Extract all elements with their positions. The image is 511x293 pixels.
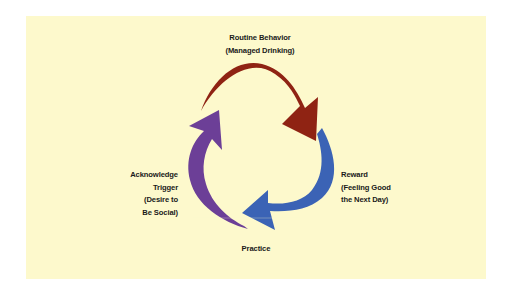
reward-label-line2: (Feeling Good	[341, 182, 421, 195]
blue-arrow-icon	[242, 128, 334, 230]
trigger-label-line1: Acknowledge	[100, 169, 178, 182]
trigger-label-line4: Be Social)	[100, 207, 178, 220]
node-routine-behavior: Routine Behavior (Managed Drinking)	[200, 32, 320, 57]
trigger-label-line2: Trigger	[100, 182, 178, 195]
node-reward: Reward (Feeling Good the Next Day)	[341, 169, 421, 207]
trigger-label-line3: (Desire to	[100, 194, 178, 207]
node-practice: Practice	[226, 243, 286, 256]
reward-label-line1: Reward	[341, 169, 421, 182]
routine-label-line2: (Managed Drinking)	[200, 45, 320, 58]
reward-label-line3: the Next Day)	[341, 194, 421, 207]
purple-arrow-icon	[188, 110, 248, 229]
routine-label-line1: Routine Behavior	[200, 32, 320, 45]
practice-label: Practice	[226, 243, 286, 256]
node-acknowledge-trigger: Acknowledge Trigger (Desire to Be Social…	[100, 169, 178, 219]
